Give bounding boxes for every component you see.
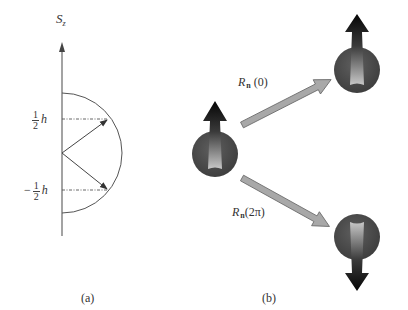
initial-spin-up-icon <box>192 101 238 177</box>
caption-a: (a) <box>81 292 94 304</box>
rotation-zero-label: Rn (0) <box>238 76 268 90</box>
lower-level-den: 2 <box>33 192 40 202</box>
rotation-zero-arg: (0) <box>254 75 268 89</box>
rotation-2pi-label: Rn(2π) <box>232 206 265 220</box>
lower-level-hbar: h <box>42 183 48 197</box>
transition-arrow-bottom-icon <box>238 171 333 233</box>
panel-a <box>59 42 122 236</box>
spin-up-vector <box>62 120 107 153</box>
caption-b: (b) <box>262 292 276 304</box>
spin-diagram <box>0 0 408 310</box>
rotation-zero-sub: n <box>246 81 250 90</box>
panel-b <box>192 14 380 291</box>
lower-level-label: −12h <box>24 181 48 202</box>
sz-axis-label-sub: z <box>63 19 66 28</box>
spin-down-vector <box>62 153 107 189</box>
rotation-2pi-op: R <box>232 205 239 219</box>
final-spin-up-icon <box>334 14 380 93</box>
spin-cone-semicircle <box>62 93 122 213</box>
lower-level-sign: − <box>24 183 31 197</box>
lower-level-fraction: 12 <box>33 181 40 202</box>
upper-level-fraction: 12 <box>32 110 39 131</box>
sz-axis-arrowhead-icon <box>59 42 65 52</box>
upper-level-den: 2 <box>32 121 39 131</box>
sz-axis-label: Sz <box>56 12 66 28</box>
final-spin-down-icon <box>334 214 380 291</box>
upper-level-label: 12h <box>30 110 47 131</box>
upper-level-hbar: h <box>41 112 47 126</box>
rotation-zero-op: R <box>238 75 245 89</box>
rotation-2pi-arg: (2π) <box>245 205 265 219</box>
